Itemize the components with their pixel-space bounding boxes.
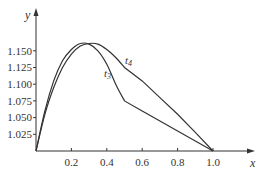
y-tick-label: 1.100: [7, 78, 32, 90]
y-tick-label: 1.050: [7, 111, 32, 123]
y-axis-label: y: [24, 8, 31, 22]
x-axis-label: x: [249, 156, 256, 170]
x-tick-label: 0.6: [135, 156, 149, 168]
y-tick-label: 1.025: [7, 128, 32, 140]
y-tick-label: 1.150: [7, 45, 32, 57]
x-axis-arrow-icon: [247, 149, 255, 154]
chart: y x 0.2 0.4 0.6 0.8 1.0 1.025 1.050 1.07…: [0, 0, 266, 175]
x-tick-label: 0.4: [100, 156, 114, 168]
x-tick-label: 1.0: [206, 156, 220, 168]
y-tick-label: 1.125: [7, 61, 32, 73]
curve-label-t3: t3: [104, 67, 111, 81]
x-tick-label: 0.2: [65, 156, 79, 168]
curve-label-t4: t4: [125, 54, 132, 68]
y-tick-label: 1.075: [7, 95, 32, 107]
x-tick-label: 0.8: [171, 156, 185, 168]
y-axis-arrow-icon: [34, 8, 39, 16]
